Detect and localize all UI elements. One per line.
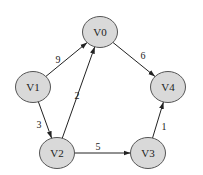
- edge-weight-label: 9: [56, 54, 61, 65]
- node-v4: V4: [151, 72, 186, 103]
- edge-v3-v4: 1: [153, 102, 167, 138]
- edge-weight-label: 6: [141, 50, 146, 61]
- edge-v0-v4: 6: [113, 42, 155, 76]
- node-v3: V3: [131, 138, 166, 169]
- edge-arrow-line: [113, 42, 155, 76]
- node-label: V4: [161, 81, 175, 93]
- node-v1: V1: [16, 72, 51, 103]
- edge-weight-label: 2: [75, 90, 80, 101]
- edge-v1-v2: 3: [37, 102, 52, 138]
- directed-graph: 963251 V0V1V2V3V4: [0, 0, 203, 175]
- edge-weight-label: 5: [96, 141, 101, 152]
- edge-weight-label: 3: [37, 119, 42, 130]
- node-label: V2: [50, 147, 63, 159]
- node-label: V1: [26, 81, 39, 93]
- node-label: V3: [141, 147, 155, 159]
- edge-weight-label: 1: [162, 121, 167, 132]
- edge-v2-v3: 5: [75, 141, 131, 154]
- edge-v2-v0: 2: [62, 47, 94, 138]
- node-label: V0: [93, 26, 107, 38]
- node-v0: V0: [83, 17, 118, 48]
- edge-arrow-line: [46, 43, 87, 77]
- node-v2: V2: [40, 138, 75, 169]
- edge-v1-v0: 9: [46, 43, 87, 77]
